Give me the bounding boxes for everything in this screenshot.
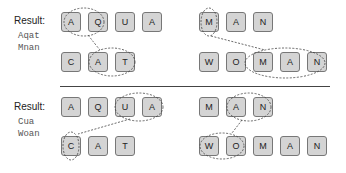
dashed-annotations <box>0 0 346 173</box>
